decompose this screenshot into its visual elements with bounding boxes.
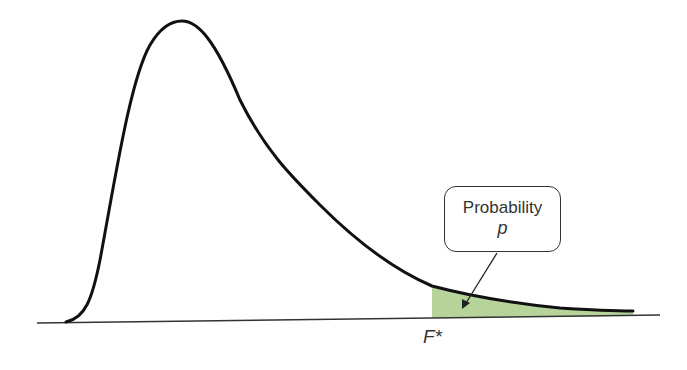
- x-axis-baseline: [37, 315, 660, 323]
- f-distribution-chart: [0, 0, 687, 370]
- density-curve: [66, 21, 633, 322]
- annotation-title: Probability: [445, 198, 560, 218]
- annotation-symbol: p: [445, 218, 560, 238]
- critical-value-label: F*: [423, 326, 442, 348]
- probability-annotation-box: Probability p: [444, 186, 561, 252]
